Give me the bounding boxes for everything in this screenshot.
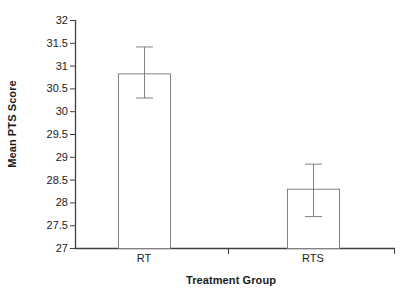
bar-chart: Mean PTS Score Treatment Group 32 31.5 3… bbox=[0, 0, 407, 298]
plot-area bbox=[0, 0, 407, 298]
y-axis-ticks bbox=[70, 21, 75, 249]
bar-rt bbox=[119, 74, 171, 249]
x-axis-ticks bbox=[229, 249, 395, 255]
